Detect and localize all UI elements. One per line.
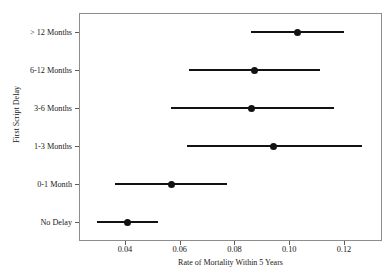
x-tick-label-4: 0.12: [324, 245, 364, 255]
x-tick-label-3: 0.10: [269, 245, 309, 255]
y-tick-mark: [75, 32, 79, 33]
y-tick-mark: [75, 146, 79, 147]
x-tick-label-2: 0.08: [214, 245, 254, 255]
y-tick-label-3-6-months: 3-6 Months: [2, 104, 72, 113]
y-tick-mark: [75, 222, 79, 223]
data-point-marker: [251, 67, 258, 74]
data-point-marker: [124, 219, 131, 226]
data-point-marker: [270, 143, 277, 150]
y-tick-label-6-12-months: 6-12 Months: [2, 66, 72, 75]
y-tick-label-0-1-month: 0-1 Month: [2, 180, 72, 189]
y-tick-label-1-3-months: 1-3 Months: [2, 142, 72, 151]
forest-plot-figure: First Script Delay Rate of Mortality Wit…: [0, 0, 391, 275]
y-axis-title: First Script Delay: [12, 60, 21, 170]
x-axis-title: Rate of Mortality Within 5 Years: [79, 258, 382, 267]
y-tick-label-12-months: > 12 Months: [2, 28, 72, 37]
y-tick-mark: [75, 108, 79, 109]
plot-area: [79, 13, 382, 241]
chart-title: [0, 0, 391, 1]
x-tick-label-0: 0.04: [105, 245, 145, 255]
data-point-marker: [168, 181, 175, 188]
y-tick-mark: [75, 184, 79, 185]
x-tick-label-1: 0.06: [160, 245, 200, 255]
y-tick-label-no-delay: No Delay: [2, 218, 72, 227]
y-tick-mark: [75, 70, 79, 71]
